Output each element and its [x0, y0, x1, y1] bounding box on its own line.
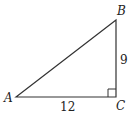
vertex-label-a: A — [3, 91, 13, 105]
right-angle-marker — [108, 89, 116, 97]
vertex-label-c: C — [116, 99, 125, 113]
triangle-abc — [16, 20, 116, 97]
side-label-ac: 12 — [60, 100, 75, 114]
triangle-diagram: A B C 12 9 — [0, 0, 134, 116]
side-label-bc: 9 — [120, 53, 128, 67]
vertex-label-b: B — [116, 4, 126, 18]
